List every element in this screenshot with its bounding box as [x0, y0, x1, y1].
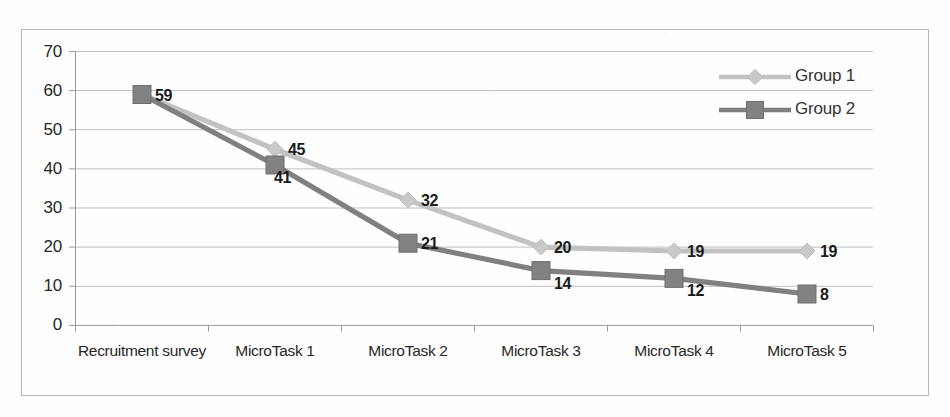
xtick-label-microtask-5: MicroTask 5 [740, 342, 874, 360]
marker-point [400, 192, 416, 208]
marker-point [666, 243, 682, 259]
x-axis-ticks [76, 325, 874, 331]
y-axis-ticks [69, 52, 75, 326]
xtick-label-microtask-2: MicroTask 2 [341, 342, 475, 360]
series-group-1 [134, 87, 815, 260]
marker-point [533, 239, 549, 255]
ytick-label-30: 30 [22, 198, 62, 218]
legend-label-group-1: Group 1 [795, 66, 855, 86]
legend-swatches [719, 70, 791, 119]
xtick-label-microtask-1: MicroTask 1 [208, 342, 342, 360]
data-label-group-1-5: 19 [820, 243, 837, 261]
marker-point [399, 234, 417, 252]
legend-marker-square-icon [747, 102, 764, 119]
series-group-1-line [142, 95, 807, 252]
ytick-label-60: 60 [22, 81, 62, 101]
chart-frame: 70 60 50 40 30 20 10 0 Recruitment surve… [21, 29, 929, 396]
data-label-group-2-5: 8 [820, 286, 829, 304]
data-label-group-2-1: 41 [274, 169, 291, 187]
xtick-label-recruitment-survey: Recruitment survey [72, 342, 212, 360]
ytick-label-50: 50 [22, 120, 62, 140]
data-label-group-2-2: 21 [421, 235, 438, 253]
legend-label-group-2: Group 2 [795, 99, 855, 119]
legend-marker-diamond-icon [747, 70, 763, 85]
ytick-label-70: 70 [22, 42, 62, 62]
marker-point [267, 141, 283, 157]
marker-point [532, 262, 550, 280]
series-group-2-line [142, 95, 807, 295]
marker-point [798, 285, 816, 303]
data-label-group-2-4: 12 [687, 282, 704, 300]
series-group-1-markers [134, 87, 815, 260]
ytick-label-0: 0 [22, 315, 62, 335]
xtick-label-microtask-3: MicroTask 3 [474, 342, 608, 360]
data-label-group-2-3: 14 [554, 275, 571, 293]
series-group-2-markers [133, 86, 816, 304]
series-group-2 [133, 86, 816, 304]
marker-point [799, 243, 815, 259]
ytick-label-20: 20 [22, 237, 62, 257]
data-label-shared-0: 59 [155, 87, 172, 105]
marker-point [133, 86, 151, 104]
ytick-label-10: 10 [22, 276, 62, 296]
data-label-group-1-1: 45 [288, 141, 305, 159]
ytick-label-40: 40 [22, 159, 62, 179]
data-label-group-1-3: 20 [554, 239, 571, 257]
data-label-group-1-2: 32 [421, 192, 438, 210]
data-label-group-1-4: 19 [687, 243, 704, 261]
marker-point [665, 269, 683, 287]
chart-plot-area [22, 30, 928, 395]
xtick-label-microtask-4: MicroTask 4 [607, 342, 741, 360]
